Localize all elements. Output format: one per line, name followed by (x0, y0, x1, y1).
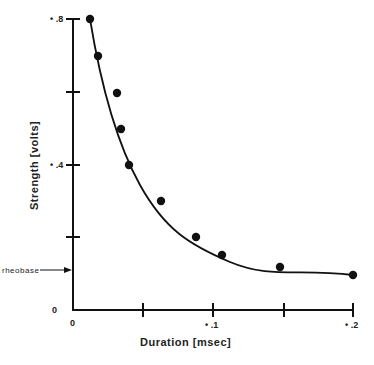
data-point (157, 197, 165, 205)
x-tick-label-1: • .1 (205, 320, 218, 330)
data-point (125, 161, 133, 169)
data-point (218, 251, 226, 259)
y-axis-title: Strength [volts] (28, 121, 40, 210)
rheobase-label: rheobase (2, 266, 39, 275)
data-points (86, 15, 357, 279)
data-point (117, 125, 125, 133)
y-tick-label-4: • .4 (50, 160, 63, 170)
data-point (86, 15, 94, 23)
x-axis-title: Duration [msec] (140, 336, 231, 348)
data-point (94, 52, 102, 60)
axes (72, 19, 353, 311)
rheobase-arrow-icon (40, 267, 72, 273)
x-tick-label-0: 0 (70, 318, 75, 328)
y-tick-label-8: • .8 (50, 14, 63, 24)
data-point (349, 271, 357, 279)
strength-duration-chart: • .8 • .4 0 0 • .1 • .2 Duration [msec] … (0, 0, 374, 365)
data-point (113, 89, 121, 97)
x-tick-label-2: • .2 (345, 320, 358, 330)
data-point (192, 233, 200, 241)
y-tick-label-0: 0 (52, 305, 57, 315)
data-point (276, 263, 284, 271)
fitted-curve (90, 19, 353, 275)
